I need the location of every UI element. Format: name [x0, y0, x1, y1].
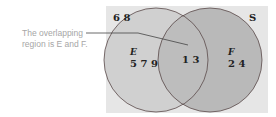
universe-label: S [249, 12, 256, 23]
set-e-values: 5 7 9 [130, 58, 158, 69]
intersection-values: 1 3 [182, 54, 199, 65]
set-f-label: F [227, 47, 235, 57]
outside-values: 6 8 [113, 12, 130, 23]
set-f-values: 2 4 [228, 58, 245, 69]
set-e-label: E [129, 47, 137, 57]
venn-diagram: 6 8 S E 5 7 9 1 3 F 2 4 [0, 0, 276, 117]
